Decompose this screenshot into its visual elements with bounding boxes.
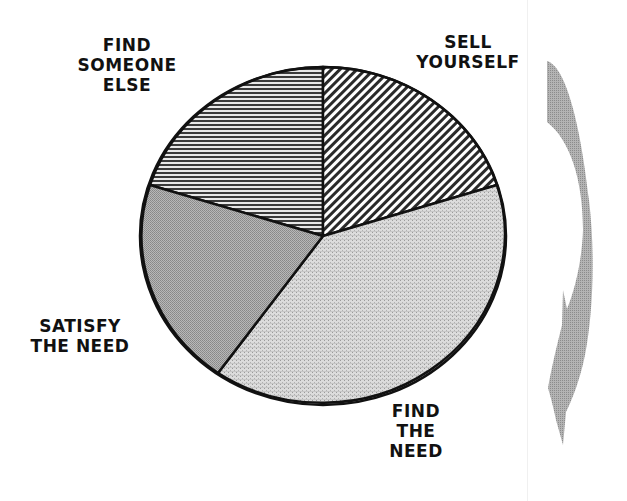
label-line: ELSE [62,75,192,95]
label-line: SELL [398,32,538,52]
curved-arrow-icon [547,61,593,445]
label-line: NEED [376,441,456,461]
label-line: SOMEONE [62,55,192,75]
label-line: THE [376,421,456,441]
label-line: FIND [62,35,192,55]
label-line: FIND [376,401,456,421]
label-line: YOURSELF [398,52,538,72]
pie-slices [140,67,506,405]
label-satisfy-the-need: SATISFY THE NEED [5,316,155,356]
label-find-the-need: FIND THE NEED [376,401,456,461]
label-find-someone-else: FIND SOMEONE ELSE [62,35,192,95]
label-line: THE NEED [5,336,155,356]
label-sell-yourself: SELL YOURSELF [398,32,538,72]
label-line: SATISFY [5,316,155,336]
